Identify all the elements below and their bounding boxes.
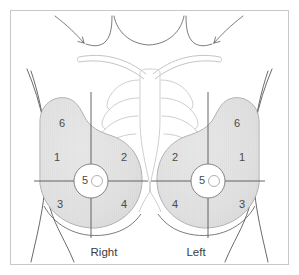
region-number-right-2: 2 (121, 151, 127, 163)
region-number-left-4: 4 (172, 198, 178, 210)
region-number-left-5: 5 (199, 174, 205, 186)
region-number-right-4: 4 (121, 198, 127, 210)
right-nipple (92, 176, 103, 187)
region-number-left-3: 3 (239, 198, 245, 210)
breast-quadrant-diagram: 6 1 2 3 4 5 6 2 1 4 3 5 Right (0, 0, 299, 275)
figure-frame: 6 1 2 3 4 5 6 2 1 4 3 5 Right (0, 0, 299, 275)
region-number-left-6: 6 (234, 117, 240, 129)
region-number-right-6: 6 (59, 117, 65, 129)
region-number-right-5: 5 (82, 174, 88, 186)
region-number-left-1: 1 (239, 151, 245, 163)
side-label-left: Left (186, 246, 206, 258)
region-number-right-3: 3 (57, 198, 63, 210)
region-number-left-2: 2 (172, 151, 178, 163)
side-label-right: Right (91, 246, 119, 258)
left-nipple (209, 176, 220, 187)
region-number-right-1: 1 (54, 151, 60, 163)
